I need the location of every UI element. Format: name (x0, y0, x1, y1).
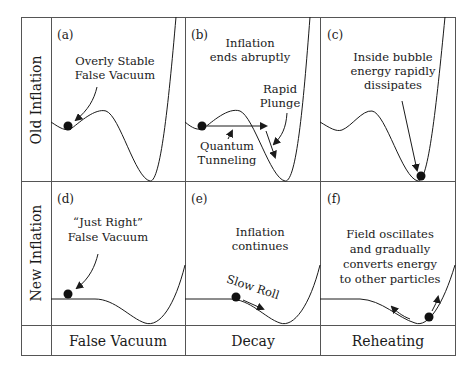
svg-text:Overly Stable: Overly Stable (75, 54, 154, 68)
field-ball (425, 313, 434, 322)
col-label-decay: Decay (231, 333, 275, 349)
svg-text:Inflation: Inflation (235, 225, 285, 239)
panel-f: (f) Field oscillates and gradually conve… (320, 192, 455, 324)
svg-text:Tunneling: Tunneling (198, 153, 257, 167)
svg-text:energy rapidly: energy rapidly (351, 64, 436, 78)
panel-c: (c) Inside bubble energy rapidly dissipa… (320, 17, 445, 181)
plunge-pointer (274, 113, 287, 144)
panel-d: (d) “Just Right” False Vacuum (51, 192, 185, 324)
svg-text:False Vacuum: False Vacuum (75, 68, 155, 82)
plunge-arrow (266, 131, 275, 157)
field-ball (232, 293, 241, 302)
field-ball (198, 122, 207, 131)
svg-text:(d): (d) (57, 192, 74, 206)
panel-a: (a) Overly Stable False Vacuum (51, 17, 176, 181)
svg-text:(a): (a) (57, 28, 74, 42)
pointer-arrow (402, 101, 417, 170)
field-ball (64, 290, 73, 299)
svg-text:False Vacuum: False Vacuum (68, 230, 148, 244)
svg-text:ends abruptly: ends abruptly (210, 50, 291, 64)
roll-arrow (243, 300, 263, 309)
svg-text:Inside bubble: Inside bubble (353, 50, 433, 64)
pointer-arrow (77, 254, 98, 288)
svg-text:“Just Right”: “Just Right” (73, 215, 143, 229)
svg-text:(c): (c) (327, 28, 343, 42)
svg-text:Field oscillates: Field oscillates (346, 227, 434, 241)
svg-text:dissipates: dissipates (364, 78, 422, 92)
panel-e: (e) Inflation continues Slow Roll (185, 192, 320, 324)
svg-text:to other particles: to other particles (340, 272, 441, 286)
svg-text:and gradually: and gradually (350, 242, 431, 256)
col-label-false-vacuum: False Vacuum (69, 333, 167, 349)
field-ball (417, 172, 426, 181)
field-ball (64, 122, 73, 131)
svg-text:(b): (b) (191, 28, 208, 42)
panel-b: (b) Inflation ends abruptly Rapid Plunge… (185, 17, 310, 181)
pointer-arrow (76, 87, 97, 120)
row-label-old-inflation: Old Inflation (28, 55, 44, 144)
svg-text:Inflation: Inflation (225, 36, 275, 50)
inflation-diagram: Old Inflation New Inflation False Vacuum… (0, 0, 475, 373)
svg-text:continues: continues (232, 239, 289, 253)
svg-text:Quantum: Quantum (200, 139, 254, 153)
svg-text:Plunge: Plunge (260, 96, 301, 110)
col-label-reheating: Reheating (352, 333, 425, 349)
potential-curve (185, 265, 320, 324)
svg-text:Rapid: Rapid (263, 82, 298, 96)
svg-text:converts energy: converts energy (343, 257, 438, 271)
svg-text:(e): (e) (191, 192, 207, 206)
tunnel-pointer (228, 131, 232, 139)
svg-text:(f): (f) (327, 192, 341, 206)
row-label-new-inflation: New Inflation (28, 205, 44, 302)
